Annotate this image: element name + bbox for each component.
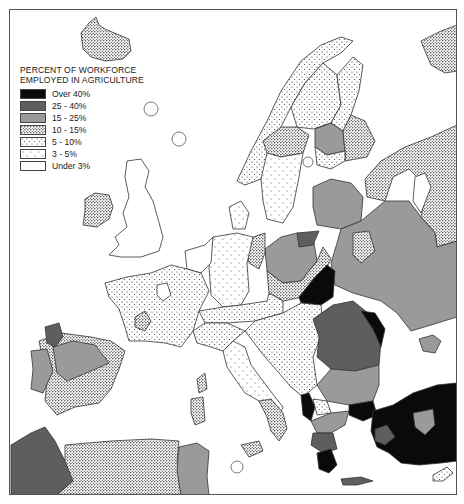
swatch-3-5 (20, 149, 46, 159)
legend-item-over40: Over 40% (20, 88, 150, 100)
region-tunisia (177, 443, 209, 495)
legend-title-line2: EMPLOYED IN AGRICULTURE (20, 75, 150, 85)
legend: PERCENT OF WORKFORCE EMPLOYED IN AGRICUL… (20, 65, 150, 172)
legend-label: 3 - 5% (52, 149, 77, 159)
legend-label: 10 - 15% (52, 125, 86, 135)
swatch-5-10 (20, 137, 46, 147)
legend-label: Over 40% (52, 89, 90, 99)
legend-item-25-40: 25 - 40% (20, 100, 150, 112)
region-corsica (197, 373, 207, 393)
legend-item-3-5: 3 - 5% (20, 148, 150, 160)
region-france (105, 265, 209, 347)
region-iceland (81, 17, 131, 61)
legend-title-line1: PERCENT OF WORKFORCE (20, 65, 150, 75)
region-crimea (419, 335, 441, 353)
region-sicily (241, 441, 263, 457)
legend-item-10-15: 10 - 15% (20, 124, 150, 136)
inset-circle-faroe (172, 132, 186, 146)
region-finland-east (343, 115, 375, 161)
region-bulgaria (317, 365, 379, 405)
legend-label: 25 - 40% (52, 101, 86, 111)
region-great-britain (109, 159, 163, 257)
region-morocco (11, 427, 73, 495)
region-turkey (371, 383, 457, 465)
legend-item-5-10: 5 - 10% (20, 136, 150, 148)
region-poland-north (297, 231, 319, 247)
region-baltics (313, 179, 363, 229)
swatch-25-40 (20, 101, 46, 111)
region-sweden-south (261, 153, 303, 223)
inset-circle-malta (231, 461, 243, 473)
region-denmark (229, 201, 249, 229)
region-russia-north (421, 25, 457, 73)
legend-label: 5 - 10% (52, 137, 82, 147)
legend-label: 15 - 25% (52, 113, 86, 123)
region-cyprus (433, 467, 453, 481)
region-ireland (83, 193, 113, 227)
swatch-under3 (20, 161, 46, 171)
swatch-15-25 (20, 113, 46, 123)
region-albania (301, 393, 315, 421)
swatch-10-15 (20, 125, 46, 135)
legend-item-15-25: 15 - 25% (20, 112, 150, 124)
region-sardinia (191, 397, 205, 425)
swatch-over40 (20, 89, 46, 99)
inset-circle-gotland (303, 157, 313, 167)
region-greece-west (311, 433, 337, 453)
region-romania (313, 301, 381, 371)
region-algeria (57, 439, 181, 495)
region-greece-south (317, 449, 337, 473)
region-west-germany (209, 233, 253, 307)
legend-label: Under 3% (52, 161, 90, 171)
region-crete (341, 477, 373, 485)
map-frame: PERCENT OF WORKFORCE EMPLOYED IN AGRICUL… (9, 9, 457, 495)
legend-item-under3: Under 3% (20, 160, 150, 172)
region-italy-south (259, 399, 287, 441)
